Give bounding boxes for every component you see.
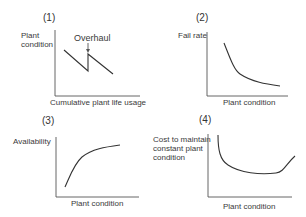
panel-3-axes	[56, 137, 139, 197]
panel-4-axes	[208, 134, 292, 197]
panel-2-curve	[224, 43, 280, 86]
panel-1-line	[64, 50, 113, 74]
panel-4-curve	[218, 135, 295, 174]
panel-1-axes	[55, 30, 140, 96]
panel-2-axes	[207, 32, 288, 96]
diagram-canvas	[0, 0, 306, 217]
panel-3-curve	[65, 145, 120, 187]
